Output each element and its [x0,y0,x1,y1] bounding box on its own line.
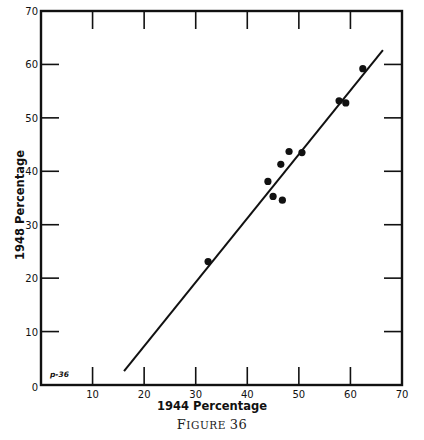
data-point [359,65,366,72]
data-point [204,258,211,265]
x-tick-label: 50 [292,389,305,400]
y-tick-label: 60 [25,59,38,70]
x-tick-label: 70 [396,389,409,400]
data-point [269,193,276,200]
y-tick-label: 10 [25,327,38,338]
data-point [342,99,349,106]
x-tick-label: 20 [138,389,151,400]
caption-smallcaps: IGURE [186,419,229,431]
data-points [204,65,366,265]
y-tick-label: 0 [32,382,38,393]
y-tick-label: 20 [25,273,38,284]
data-point [335,97,342,104]
data-point [279,197,286,204]
y-tick-label: 40 [25,166,38,177]
y-tick-label: 70 [25,6,38,17]
data-point [277,161,284,168]
plot-frame [41,11,402,385]
figure-caption: FIGURE 36 [177,417,247,432]
scatter-plot: 10203040506070 010203040506070 p-36 1944… [0,0,424,440]
y-axis-tick-labels: 010203040506070 [25,6,38,393]
data-point [285,148,292,155]
y-tick-label: 30 [25,220,38,231]
y-tick-label: 50 [25,113,38,124]
caption-initial: F [177,417,187,432]
y-axis-title: 1948 Percentage [13,150,27,260]
x-tick-label: 60 [344,389,357,400]
axis-ticks [41,11,402,385]
x-axis-title: 1944 Percentage [157,399,267,413]
fit-line-segment [124,50,383,371]
plot-border [41,11,402,385]
plate-annotation: p-36 [49,370,69,379]
x-tick-label: 10 [86,389,99,400]
regression-line [124,50,383,371]
data-point [298,149,305,156]
data-point [264,178,271,185]
figure: 10203040506070 010203040506070 p-36 1944… [0,0,424,440]
caption-number: 36 [230,417,248,432]
